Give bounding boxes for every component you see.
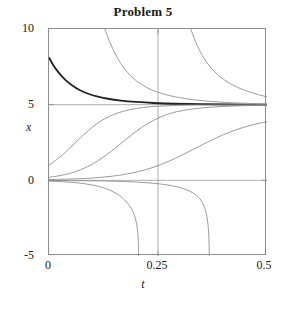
xtick-label-05: 0.5 bbox=[240, 258, 286, 273]
ytick-label-0: 0 bbox=[0, 173, 34, 188]
plot-canvas bbox=[49, 29, 267, 256]
figure-container: Problem 5 10 5 0 -5 x 0 0.25 0.5 t bbox=[0, 0, 286, 314]
y-axis-label: x bbox=[26, 120, 31, 135]
solution-curve-7 bbox=[49, 180, 209, 256]
ytick-label-10: 10 bbox=[0, 21, 34, 36]
solution-curve-1 bbox=[105, 29, 267, 104]
xtick-label-025: 0.25 bbox=[133, 258, 181, 273]
solution-curve-2 bbox=[191, 29, 267, 97]
gridline-layer bbox=[49, 29, 267, 256]
solution-curve-6 bbox=[49, 181, 139, 256]
x-axis-label: t bbox=[0, 277, 286, 292]
chart-title: Problem 5 bbox=[0, 4, 286, 20]
xtick-label-0: 0 bbox=[24, 258, 72, 273]
plot-area bbox=[48, 28, 266, 255]
ytick-label-5: 5 bbox=[0, 97, 34, 112]
